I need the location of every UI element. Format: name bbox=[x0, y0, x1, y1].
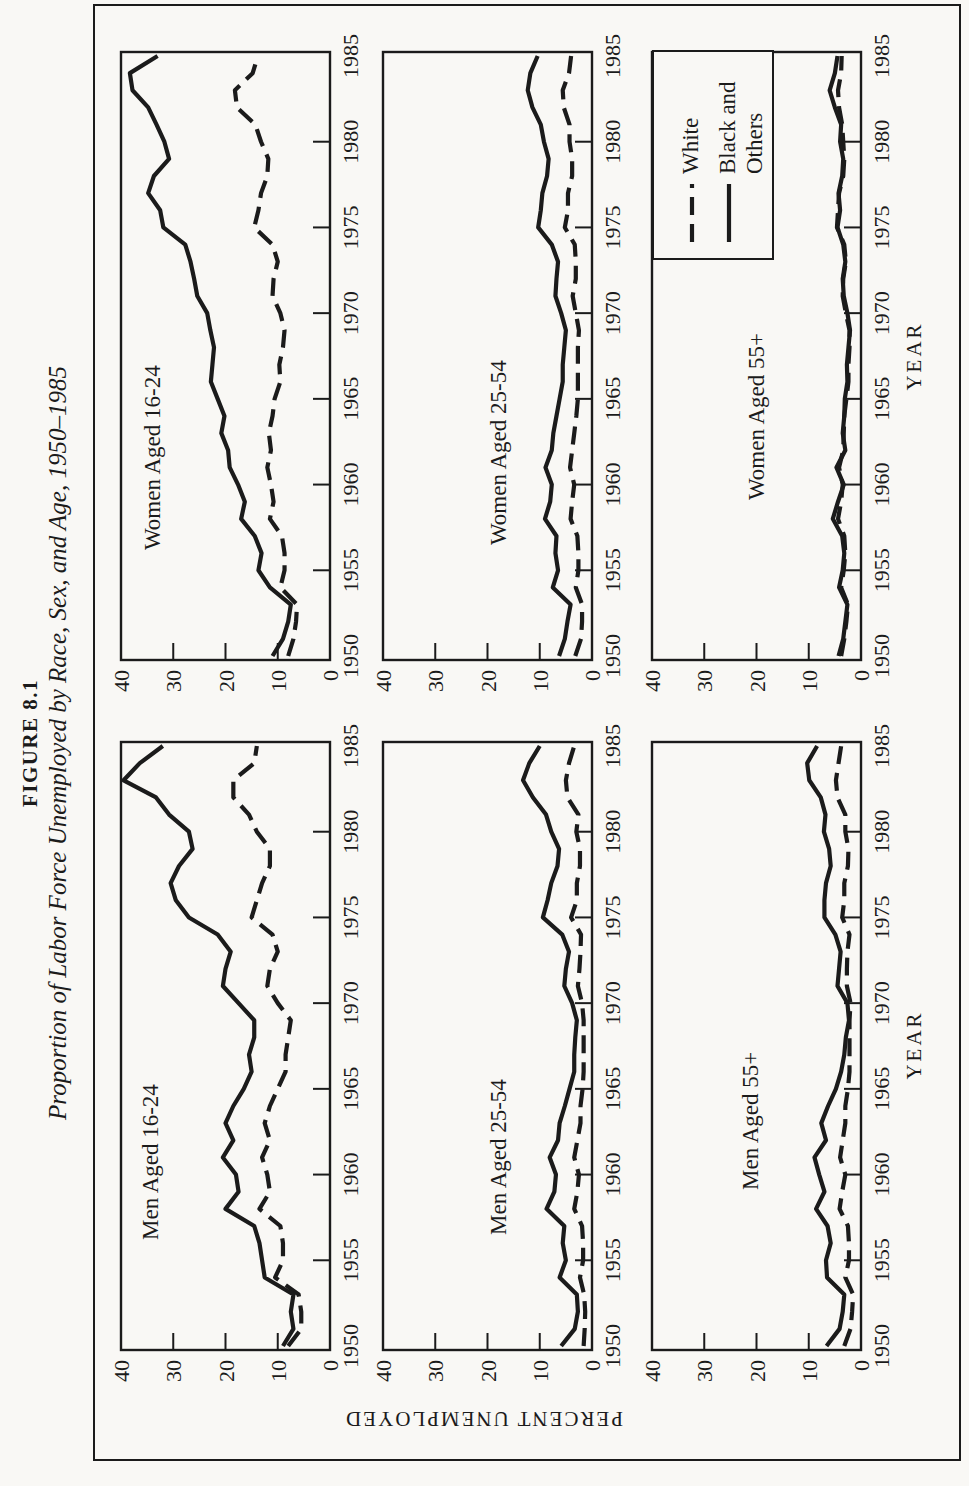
svg-text:1960: 1960 bbox=[869, 463, 894, 507]
svg-text:1965: 1965 bbox=[869, 377, 894, 421]
scanned-page: FIGURE 8.1 Proportion of Labor Force Une… bbox=[0, 0, 969, 1486]
svg-text:1975: 1975 bbox=[869, 895, 894, 939]
svg-text:20: 20 bbox=[745, 1360, 770, 1382]
svg-text:1980: 1980 bbox=[600, 120, 625, 164]
panel-title-women-25-54: Women Aged 25-54 bbox=[486, 360, 512, 545]
svg-text:40: 40 bbox=[640, 1360, 665, 1382]
svg-text:10: 10 bbox=[797, 1360, 822, 1382]
svg-text:1950: 1950 bbox=[869, 1324, 894, 1368]
svg-text:20: 20 bbox=[476, 670, 501, 692]
svg-text:40: 40 bbox=[640, 670, 665, 692]
svg-text:1950: 1950 bbox=[869, 634, 894, 678]
svg-text:10: 10 bbox=[528, 670, 553, 692]
panel-title-women-55plus: Women Aged 55+ bbox=[744, 333, 770, 500]
x-axis-label-women-column: YEAR bbox=[902, 296, 927, 416]
svg-text:20: 20 bbox=[476, 1360, 501, 1382]
svg-text:1975: 1975 bbox=[600, 205, 625, 249]
svg-text:1965: 1965 bbox=[600, 1067, 625, 1111]
svg-text:1960: 1960 bbox=[338, 463, 363, 507]
svg-text:1985: 1985 bbox=[600, 34, 625, 78]
svg-text:1955: 1955 bbox=[600, 548, 625, 592]
svg-text:20: 20 bbox=[214, 1360, 239, 1382]
panel-title-men-16-24: Men Aged 16-24 bbox=[138, 1084, 164, 1240]
svg-text:30: 30 bbox=[161, 670, 186, 692]
panel-title-women-16-24: Women Aged 16-24 bbox=[140, 365, 166, 550]
svg-text:1950: 1950 bbox=[600, 1324, 625, 1368]
svg-text:40: 40 bbox=[371, 1360, 396, 1382]
svg-text:1955: 1955 bbox=[600, 1238, 625, 1282]
y-axis-label: PERCENT UNEMPLOYED bbox=[324, 1406, 644, 1431]
svg-text:1970: 1970 bbox=[600, 291, 625, 335]
svg-text:1955: 1955 bbox=[869, 548, 894, 592]
svg-text:30: 30 bbox=[423, 670, 448, 692]
svg-text:1975: 1975 bbox=[338, 895, 363, 939]
svg-text:1955: 1955 bbox=[869, 1238, 894, 1282]
chart-men-16-24: 0102030401950195519601965197019751980198… bbox=[119, 734, 390, 1400]
svg-text:30: 30 bbox=[692, 670, 717, 692]
svg-text:30: 30 bbox=[423, 1360, 448, 1382]
svg-text:1970: 1970 bbox=[869, 981, 894, 1025]
legend-solid-line-icon bbox=[725, 184, 733, 242]
svg-text:1985: 1985 bbox=[869, 34, 894, 78]
figure-number: FIGURE 8.1 bbox=[18, 0, 43, 1486]
svg-text:1980: 1980 bbox=[600, 810, 625, 854]
svg-text:1965: 1965 bbox=[338, 377, 363, 421]
svg-text:1975: 1975 bbox=[338, 205, 363, 249]
chart-women-25-54: 0102030401950195519601965197019751980198… bbox=[381, 44, 652, 710]
x-axis-label-men-column: YEAR bbox=[902, 985, 927, 1105]
svg-text:1985: 1985 bbox=[338, 34, 363, 78]
svg-text:1980: 1980 bbox=[869, 120, 894, 164]
svg-text:1985: 1985 bbox=[869, 724, 894, 768]
chart-men-55plus: 0102030401950195519601965197019751980198… bbox=[650, 734, 921, 1400]
svg-text:10: 10 bbox=[266, 670, 291, 692]
legend-label-black-line1: Black and bbox=[715, 81, 741, 174]
svg-text:1965: 1965 bbox=[869, 1067, 894, 1111]
svg-text:1980: 1980 bbox=[338, 120, 363, 164]
svg-text:40: 40 bbox=[109, 1360, 134, 1382]
svg-text:1960: 1960 bbox=[600, 463, 625, 507]
svg-text:1950: 1950 bbox=[338, 1324, 363, 1368]
svg-text:1960: 1960 bbox=[338, 1153, 363, 1197]
svg-text:40: 40 bbox=[109, 670, 134, 692]
svg-text:1970: 1970 bbox=[869, 291, 894, 335]
panel-title-men-25-54: Men Aged 25-54 bbox=[486, 1079, 512, 1235]
legend-dashed-line-icon bbox=[688, 184, 696, 242]
svg-text:1960: 1960 bbox=[600, 1153, 625, 1197]
svg-text:10: 10 bbox=[528, 1360, 553, 1382]
svg-text:10: 10 bbox=[266, 1360, 291, 1382]
svg-text:1985: 1985 bbox=[338, 724, 363, 768]
svg-text:30: 30 bbox=[161, 1360, 186, 1382]
svg-text:1970: 1970 bbox=[338, 981, 363, 1025]
svg-text:1970: 1970 bbox=[600, 981, 625, 1025]
chart-men-25-54: 0102030401950195519601965197019751980198… bbox=[381, 734, 652, 1400]
svg-text:20: 20 bbox=[214, 670, 239, 692]
legend-box: White Black and Others bbox=[652, 50, 774, 260]
svg-text:1985: 1985 bbox=[600, 724, 625, 768]
svg-text:1955: 1955 bbox=[338, 1238, 363, 1282]
svg-text:1950: 1950 bbox=[600, 634, 625, 678]
svg-text:1965: 1965 bbox=[600, 377, 625, 421]
panel-title-men-55plus: Men Aged 55+ bbox=[738, 1052, 764, 1190]
figure-title: Proportion of Labor Force Unemployed by … bbox=[44, 0, 72, 1486]
svg-text:1980: 1980 bbox=[338, 810, 363, 854]
svg-text:1965: 1965 bbox=[338, 1067, 363, 1111]
legend-label-black-line2: Others bbox=[742, 113, 768, 174]
svg-text:1960: 1960 bbox=[869, 1153, 894, 1197]
svg-text:1955: 1955 bbox=[338, 548, 363, 592]
svg-text:1980: 1980 bbox=[869, 810, 894, 854]
svg-text:1975: 1975 bbox=[600, 895, 625, 939]
svg-text:30: 30 bbox=[692, 1360, 717, 1382]
svg-text:40: 40 bbox=[371, 670, 396, 692]
svg-text:1975: 1975 bbox=[869, 205, 894, 249]
svg-text:10: 10 bbox=[797, 670, 822, 692]
figure-stage: FIGURE 8.1 Proportion of Labor Force Une… bbox=[0, 0, 969, 1486]
svg-text:1950: 1950 bbox=[338, 634, 363, 678]
svg-text:20: 20 bbox=[745, 670, 770, 692]
legend-label-white: White bbox=[678, 118, 704, 174]
svg-text:1970: 1970 bbox=[338, 291, 363, 335]
